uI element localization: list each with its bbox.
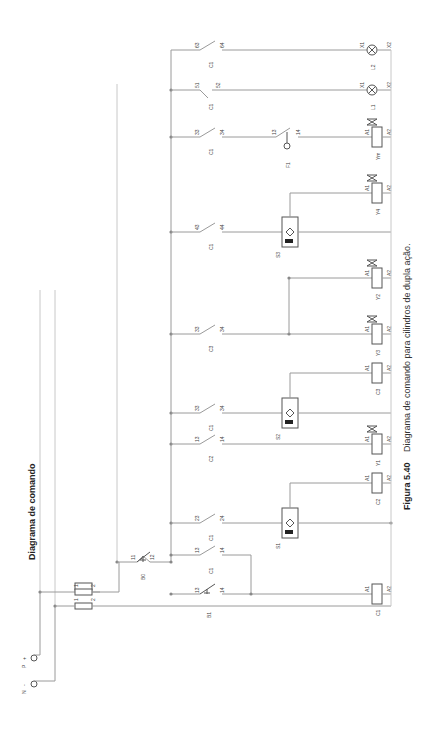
svg-text:C1: C1 <box>208 424 214 431</box>
svg-text:L1: L1 <box>370 104 376 110</box>
svg-text:P: P <box>21 664 27 668</box>
rung-y1: 13 14 C2 A1 A2 Y1 <box>169 426 392 466</box>
figure-caption-text: Diagrama de comando para cilindros de du… <box>402 243 412 452</box>
svg-text:1: 1 <box>73 598 79 601</box>
fuses: 1 2 1 2 <box>40 562 391 609</box>
svg-text:34: 34 <box>219 129 225 135</box>
rung-c1: 13 14 B1 13 14 C1 A1 A2 C1 <box>169 546 392 618</box>
svg-text:34: 34 <box>219 405 225 411</box>
svg-text:2: 2 <box>90 584 96 587</box>
rung-s1-c2: 23 24 C1 S1 A1 A2 C2 <box>169 473 392 549</box>
svg-text:13: 13 <box>194 436 200 442</box>
svg-text:64: 64 <box>219 42 225 48</box>
svg-text:C1: C1 <box>208 534 214 541</box>
svg-text:B0: B0 <box>140 574 146 580</box>
svg-text:51: 51 <box>194 82 200 88</box>
svg-text:-: - <box>21 684 27 686</box>
p-terminal-icon <box>31 655 37 661</box>
svg-text:33: 33 <box>194 129 200 135</box>
svg-text:Ym: Ym <box>375 153 381 161</box>
svg-text:X2: X2 <box>386 42 392 48</box>
svg-text:14: 14 <box>219 587 225 593</box>
svg-text:A1: A1 <box>364 270 370 276</box>
rung-y3-y2: 33 34 C3 A1 A2 Y3 A1 A2 Y2 <box>169 260 392 356</box>
rung-ym: 33 34 C1 13 14 F1 A1 A2 Ym <box>169 119 392 168</box>
rung-s3-y4: 43 44 C1 S3 A1 A2 Y4 <box>169 175 392 258</box>
svg-text:11: 11 <box>130 555 136 560</box>
svg-text:N: N <box>21 690 27 694</box>
svg-text:14: 14 <box>219 547 225 553</box>
svg-text:X1: X1 <box>359 82 365 88</box>
svg-text:S1: S1 <box>275 543 281 549</box>
svg-text:1: 1 <box>73 584 79 587</box>
svg-text:2: 2 <box>90 598 96 601</box>
svg-text:C2: C2 <box>375 498 381 505</box>
svg-text:34: 34 <box>219 326 225 332</box>
rung-s2-c3: 33 34 C1 S2 A1 A2 C3 <box>169 363 392 440</box>
svg-text:63: 63 <box>194 42 200 48</box>
svg-text:C1: C1 <box>375 609 381 616</box>
rung-l1: 51 52 C1 X1 X2 L1 <box>169 82 392 110</box>
svg-text:F1: F1 <box>285 162 291 168</box>
figure-number: Figura 5.40 <box>402 462 412 510</box>
svg-text:13: 13 <box>194 587 200 593</box>
svg-text:Y2: Y2 <box>375 294 381 300</box>
svg-text:C1: C1 <box>208 243 214 250</box>
svg-text:23: 23 <box>194 515 200 521</box>
svg-text:52: 52 <box>215 82 221 88</box>
svg-text:A1: A1 <box>364 365 370 371</box>
command-diagram: Diagrama de comando + P - N 1 2 1 2 11 1… <box>0 0 421 729</box>
svg-text:Y1: Y1 <box>375 460 381 466</box>
svg-text:C2: C2 <box>208 455 214 462</box>
svg-text:C1: C1 <box>208 61 214 68</box>
svg-text:43: 43 <box>194 224 200 230</box>
svg-text:Y3: Y3 <box>375 350 381 356</box>
svg-text:13: 13 <box>194 547 200 553</box>
diagram-title: Diagrama de comando <box>27 463 37 560</box>
svg-text:C3: C3 <box>375 388 381 395</box>
svg-text:A1: A1 <box>364 475 370 481</box>
svg-text:Y4: Y4 <box>375 209 381 215</box>
supply-terminals: + P - N <box>21 592 55 694</box>
svg-text:+: + <box>21 657 27 660</box>
svg-text:C1: C1 <box>208 567 214 574</box>
svg-text:S3: S3 <box>275 252 281 258</box>
rung-l2: 63 64 C1 X1 X2 L2 <box>171 41 392 70</box>
svg-text:24: 24 <box>219 515 225 521</box>
svg-text:12: 12 <box>149 554 155 560</box>
svg-text:33: 33 <box>194 405 200 411</box>
svg-text:A1: A1 <box>364 436 370 442</box>
svg-text:13: 13 <box>271 129 277 135</box>
figure-caption: Figura 5.40 Diagrama de comando para cil… <box>402 243 412 510</box>
svg-text:C1: C1 <box>208 103 214 110</box>
svg-text:S2: S2 <box>275 434 281 440</box>
svg-text:L2: L2 <box>370 64 376 70</box>
svg-text:14: 14 <box>219 436 225 442</box>
svg-text:33: 33 <box>194 326 200 332</box>
svg-text:C1: C1 <box>208 148 214 155</box>
svg-text:B1: B1 <box>206 612 212 618</box>
svg-text:44: 44 <box>219 224 225 230</box>
b0-stop-button: 11 12 B0 <box>117 552 171 580</box>
svg-text:14: 14 <box>295 129 301 135</box>
n-terminal-icon <box>31 681 37 687</box>
svg-text:X1: X1 <box>359 42 365 48</box>
svg-text:A1: A1 <box>364 185 370 191</box>
svg-text:A1: A1 <box>364 326 370 332</box>
svg-text:A1: A1 <box>364 129 370 135</box>
svg-text:A1: A1 <box>364 586 370 592</box>
svg-text:C3: C3 <box>208 345 214 352</box>
